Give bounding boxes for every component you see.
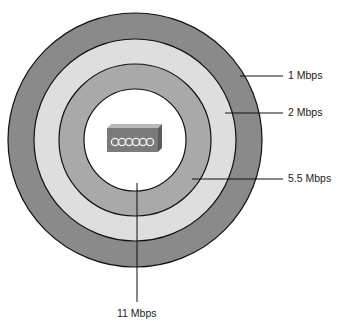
label-11mbps: 11 Mbps [117, 307, 157, 319]
label-5-5mbps: 5.5 Mbps [288, 172, 331, 184]
access-point-icon [107, 124, 162, 152]
coverage-diagram [0, 0, 345, 330]
label-2mbps: 2 Mbps [288, 106, 322, 118]
label-1mbps: 1 Mbps [288, 69, 322, 81]
